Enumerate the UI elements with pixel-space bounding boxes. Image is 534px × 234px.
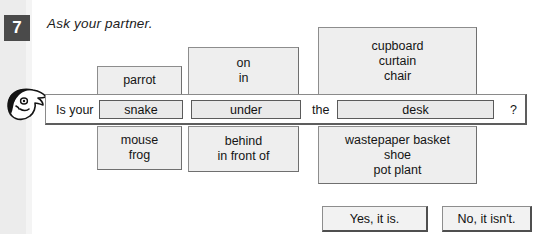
- option-line: on: [237, 56, 251, 71]
- option-box-preposition-above[interactable]: on in: [188, 47, 299, 95]
- speaking-head-icon: [3, 82, 49, 126]
- option-line: in front of: [217, 149, 269, 164]
- option-line: shoe: [384, 148, 411, 163]
- option-line: parrot: [123, 73, 156, 88]
- option-box-preposition-below[interactable]: behind in front of: [188, 126, 299, 172]
- sentence-frame: Is your snake under the desk ?: [45, 94, 527, 125]
- option-line: cupboard: [371, 39, 423, 54]
- slot-preposition[interactable]: under: [191, 100, 301, 119]
- exercise-instruction: Ask your partner.: [47, 16, 153, 31]
- option-line: wastepaper basket: [345, 133, 450, 148]
- answer-box-negative[interactable]: No, it isn't.: [442, 206, 532, 232]
- sentence-article: the: [312, 103, 329, 117]
- option-line: frog: [129, 148, 151, 163]
- exercise-number: 7: [4, 15, 30, 41]
- option-box-noun-below[interactable]: mouse frog: [97, 126, 182, 170]
- answer-box-affirmative[interactable]: Yes, it is.: [322, 206, 428, 232]
- option-line: chair: [384, 69, 411, 84]
- option-line: mouse: [121, 133, 159, 148]
- option-line: behind: [225, 134, 263, 149]
- option-line: in: [239, 71, 249, 86]
- slot-object[interactable]: desk: [337, 100, 494, 119]
- option-box-object-above[interactable]: cupboard curtain chair: [318, 27, 477, 95]
- option-box-object-below[interactable]: wastepaper basket shoe pot plant: [318, 126, 477, 184]
- sentence-lead: Is your: [56, 103, 94, 117]
- option-line: pot plant: [374, 163, 422, 178]
- option-box-noun-above[interactable]: parrot: [97, 66, 182, 95]
- sentence-terminator: ?: [510, 103, 517, 117]
- slot-noun[interactable]: snake: [99, 100, 183, 119]
- option-line: curtain: [379, 54, 417, 69]
